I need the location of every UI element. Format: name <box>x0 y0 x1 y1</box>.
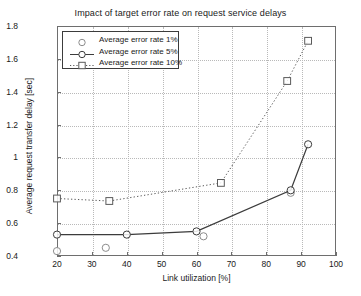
data-point-circle <box>305 141 312 148</box>
legend-marker-circle-icon <box>67 34 97 45</box>
data-point-circle <box>53 231 60 238</box>
data-point-circle <box>200 233 207 240</box>
legend-marker-square-dotted-icon <box>67 57 97 68</box>
series-circle <box>53 189 294 255</box>
legend-marker-circle-line-icon <box>67 46 97 57</box>
data-point-circle <box>102 244 109 251</box>
data-point-square <box>284 78 291 85</box>
chart-legend: Average error rate 1% Average error rate… <box>62 31 179 69</box>
legend-label: Average error rate 10% <box>99 58 182 67</box>
data-point-circle <box>287 187 294 194</box>
legend-label: Average error rate 1% <box>99 35 178 44</box>
data-point-circle <box>53 248 60 255</box>
data-point-square <box>305 37 312 44</box>
data-point-square <box>106 198 113 205</box>
data-point-square <box>54 195 61 202</box>
legend-item-error-rate-1: Average error rate 1% <box>63 34 178 46</box>
data-point-square <box>218 180 225 187</box>
data-point-circle <box>123 231 130 238</box>
chart-container: Impact of target error rate on request s… <box>0 0 361 296</box>
legend-item-error-rate-10: Average error rate 10% <box>63 57 178 69</box>
legend-label: Average error rate 5% <box>99 47 178 56</box>
data-point-circle <box>193 228 200 235</box>
legend-item-error-rate-5: Average error rate 5% <box>63 46 178 58</box>
series-layer <box>0 0 361 296</box>
